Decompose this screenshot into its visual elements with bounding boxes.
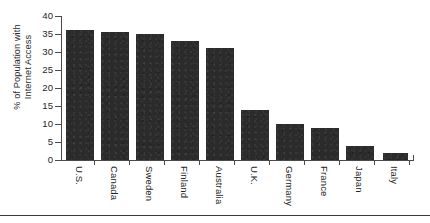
x-axis-category-label: Italy: [388, 166, 400, 184]
y-axis-tick: [55, 16, 62, 17]
x-axis-tick: [304, 160, 305, 165]
y-axis-tick-label: 0: [20, 154, 53, 165]
bar: [206, 48, 234, 160]
x-axis-tick: [269, 160, 270, 165]
y-axis-tick: [55, 52, 62, 53]
y-axis-tick: [55, 106, 62, 107]
y-axis-tick-label: 25: [20, 64, 53, 75]
y-axis-tick: [55, 88, 62, 89]
y-axis-tick-label: 40: [20, 10, 53, 21]
x-axis-category-label: Canada: [108, 166, 120, 200]
bar: [101, 32, 129, 160]
y-axis-tick: [55, 160, 62, 161]
figure-bottom-rule: [0, 215, 430, 216]
bar: [276, 124, 304, 160]
x-axis-tick: [409, 160, 410, 165]
bar: [66, 30, 94, 160]
x-axis-tick: [199, 160, 200, 165]
x-axis-category-label: Germany: [283, 166, 295, 206]
y-axis-tick-label: 5: [20, 136, 53, 147]
y-axis-tick-label: 15: [20, 100, 53, 111]
y-axis-tick-label: 20: [20, 82, 53, 93]
bar: [171, 41, 199, 160]
y-axis-tick: [55, 124, 62, 125]
bar-chart-figure: % of Population with Internet Access 051…: [0, 0, 430, 223]
x-axis-category-label: France: [318, 166, 330, 196]
bar: [136, 34, 164, 160]
y-axis-tick-label: 35: [20, 28, 53, 39]
x-axis-category-label: Japan: [353, 166, 365, 193]
x-axis-category-label: Sweden: [143, 166, 155, 201]
x-axis-line: [61, 160, 414, 161]
y-axis-tick: [55, 70, 62, 71]
bar: [346, 146, 374, 160]
x-axis-tick: [94, 160, 95, 165]
bar: [383, 153, 408, 160]
x-axis-tick: [164, 160, 165, 165]
x-axis-tick: [339, 160, 340, 165]
y-axis-tick-label: 30: [20, 46, 53, 57]
bar: [241, 110, 269, 160]
x-axis-tick: [129, 160, 130, 165]
plot-area: [62, 16, 413, 160]
x-axis-category-label: Finland: [178, 166, 190, 198]
y-axis-tick-label: 10: [20, 118, 53, 129]
x-axis-tick: [234, 160, 235, 165]
x-axis-category-label: U.K.: [248, 166, 260, 185]
bar: [311, 128, 339, 160]
x-axis-category-label: U.S.: [73, 166, 85, 185]
x-axis-category-label: Australia: [213, 166, 225, 204]
y-axis-tick: [55, 34, 62, 35]
y-axis-tick: [55, 142, 62, 143]
x-axis-tick: [374, 160, 375, 165]
x-axis-end-cap: [413, 155, 414, 161]
